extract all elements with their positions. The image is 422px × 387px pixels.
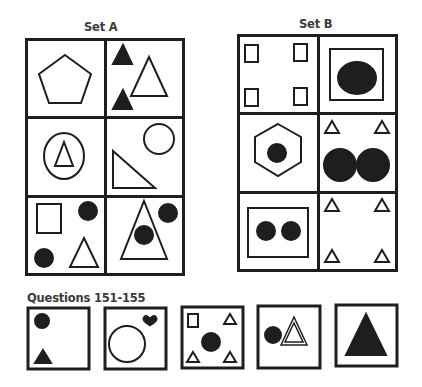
- outline-triangle-icon: [70, 238, 98, 267]
- double-outline-triangle-icon: [281, 317, 307, 345]
- filled-circle-icon: [257, 222, 275, 240]
- filled-heart-icon: [143, 315, 157, 326]
- outline-pentagon-icon: [39, 55, 91, 103]
- outline-circle-icon: [144, 124, 174, 154]
- outline-triangle-icon: [375, 199, 389, 211]
- outline-square-icon: [37, 204, 61, 233]
- filled-circle-icon: [202, 333, 220, 351]
- outline-triangle-icon: [224, 352, 236, 362]
- filled-triangle-icon: [113, 45, 132, 64]
- puzzle-figure: [0, 0, 422, 387]
- outline-rectangle-icon: [294, 88, 307, 105]
- filled-circle-icon: [79, 202, 97, 220]
- outline-triangle-icon: [187, 352, 199, 362]
- outline-triangle-icon: [375, 121, 389, 133]
- filled-circle-icon: [35, 249, 53, 267]
- large-filled-triangle-icon: [346, 314, 386, 355]
- outline-triangle-icon: [325, 250, 339, 262]
- outline-rectangle-icon: [188, 314, 198, 327]
- filled-circle-icon: [135, 226, 153, 244]
- outline-rectangle-icon: [245, 45, 258, 62]
- filled-circle-icon: [268, 144, 286, 162]
- filled-triangle-icon: [35, 350, 51, 363]
- outline-rectangle-icon: [294, 44, 307, 61]
- filled-circle-icon: [282, 222, 300, 240]
- filled-ellipse-icon: [338, 62, 376, 94]
- filled-circle-icon: [265, 327, 281, 343]
- filled-circle-icon: [357, 149, 389, 181]
- outline-right-triangle-icon: [113, 151, 155, 188]
- outline-triangle-icon: [224, 314, 236, 324]
- outline-triangle-icon: [325, 121, 339, 133]
- filled-circle-icon: [324, 149, 356, 181]
- outline-triangle-icon: [131, 57, 167, 96]
- filled-triangle-icon: [113, 90, 132, 109]
- filled-circle-icon: [159, 204, 177, 222]
- outline-rectangle-icon: [245, 89, 258, 106]
- outline-triangle-icon: [325, 199, 339, 211]
- outline-triangle-icon: [375, 250, 389, 262]
- filled-circle-icon: [35, 314, 49, 328]
- outline-triangle-icon: [55, 142, 73, 166]
- outline-circle-icon: [109, 326, 145, 362]
